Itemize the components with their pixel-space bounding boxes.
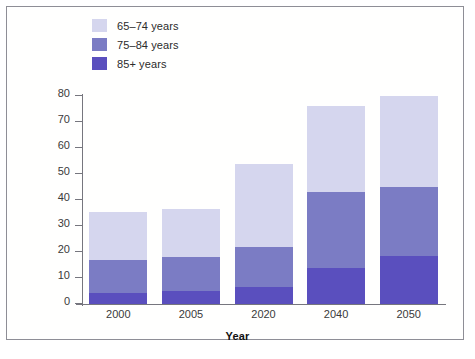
stacked-bar[interactable] [235, 164, 293, 304]
legend-label-85-plus: 85+ years [117, 58, 167, 70]
legend-item-85-plus: 85+ years [92, 54, 282, 73]
y-axis-tick: 40 [75, 199, 82, 200]
bar-segment[interactable] [162, 209, 220, 257]
bar-group[interactable]: 2000 [89, 96, 147, 304]
bar-group[interactable]: 2040 [307, 96, 365, 304]
y-axis-tick: 10 [75, 277, 82, 278]
bar-segment[interactable] [162, 257, 220, 291]
legend-label-65-74: 65–74 years [117, 20, 179, 32]
y-axis-tick: 50 [75, 173, 82, 174]
stacked-bar[interactable] [162, 209, 220, 304]
plot-area: 0102030405060708020002005202020402050 [82, 96, 445, 304]
bar-group[interactable]: 2005 [162, 96, 220, 304]
y-axis-tick: 30 [75, 225, 82, 226]
bar-segment[interactable] [89, 293, 147, 304]
bar-segment[interactable] [235, 287, 293, 304]
bar-segment[interactable] [235, 247, 293, 287]
stacked-bar[interactable] [89, 212, 147, 304]
bar-segment[interactable] [89, 260, 147, 293]
y-axis-tick: 20 [75, 251, 82, 252]
y-axis-tick-label: 0 [64, 295, 70, 307]
bar-group[interactable]: 2050 [380, 96, 438, 304]
y-axis-tick-label: 20 [58, 243, 70, 255]
y-axis-tick: 80 [75, 95, 82, 96]
x-axis-tick-label: 2005 [179, 308, 203, 320]
stacked-bar[interactable] [380, 96, 438, 304]
stacked-bar[interactable] [307, 106, 365, 304]
legend: 65–74 years 75–84 years 85+ years [92, 16, 282, 73]
x-axis-title: Year [0, 330, 475, 342]
bar-segment[interactable] [307, 106, 365, 192]
y-axis-tick: 0 [75, 303, 82, 304]
legend-item-75-84: 75–84 years [92, 35, 282, 54]
y-axis-tick: 70 [75, 121, 82, 122]
figure: 65–74 years 75–84 years 85+ years Millio… [0, 0, 475, 359]
bar-segment[interactable] [162, 291, 220, 304]
y-axis-tick-label: 60 [58, 139, 70, 151]
y-axis-tick-label: 70 [58, 113, 70, 125]
bar-segment[interactable] [307, 268, 365, 304]
x-axis-line [76, 304, 446, 305]
y-axis-tick-label: 40 [58, 191, 70, 203]
bar-segment[interactable] [307, 192, 365, 267]
y-axis-tick-label: 80 [58, 87, 70, 99]
bar-segment[interactable] [89, 212, 147, 260]
legend-swatch-85-plus [92, 57, 107, 70]
bar-group[interactable]: 2020 [235, 96, 293, 304]
y-axis-tick-label: 30 [58, 217, 70, 229]
legend-item-65-74: 65–74 years [92, 16, 282, 35]
bar-segment[interactable] [380, 96, 438, 187]
y-axis-tick: 60 [75, 147, 82, 148]
x-axis-tick-label: 2020 [251, 308, 275, 320]
legend-swatch-65-74 [92, 19, 107, 32]
y-axis-tick-label: 10 [58, 269, 70, 281]
x-axis-tick-label: 2050 [396, 308, 420, 320]
y-axis-tick-label: 50 [58, 165, 70, 177]
bar-segment[interactable] [235, 164, 293, 246]
x-axis-tick-label: 2000 [106, 308, 130, 320]
x-axis-tick-label: 2040 [324, 308, 348, 320]
legend-swatch-75-84 [92, 38, 107, 51]
bar-segment[interactable] [380, 256, 438, 304]
legend-label-75-84: 75–84 years [117, 39, 179, 51]
bar-segment[interactable] [380, 187, 438, 256]
